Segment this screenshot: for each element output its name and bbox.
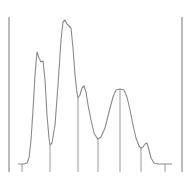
- profile-trace: [18, 20, 172, 164]
- peak-boundary-lines: [50, 89, 141, 172]
- baseline-ticks: [22, 164, 165, 172]
- densitometry-chart: [0, 0, 191, 193]
